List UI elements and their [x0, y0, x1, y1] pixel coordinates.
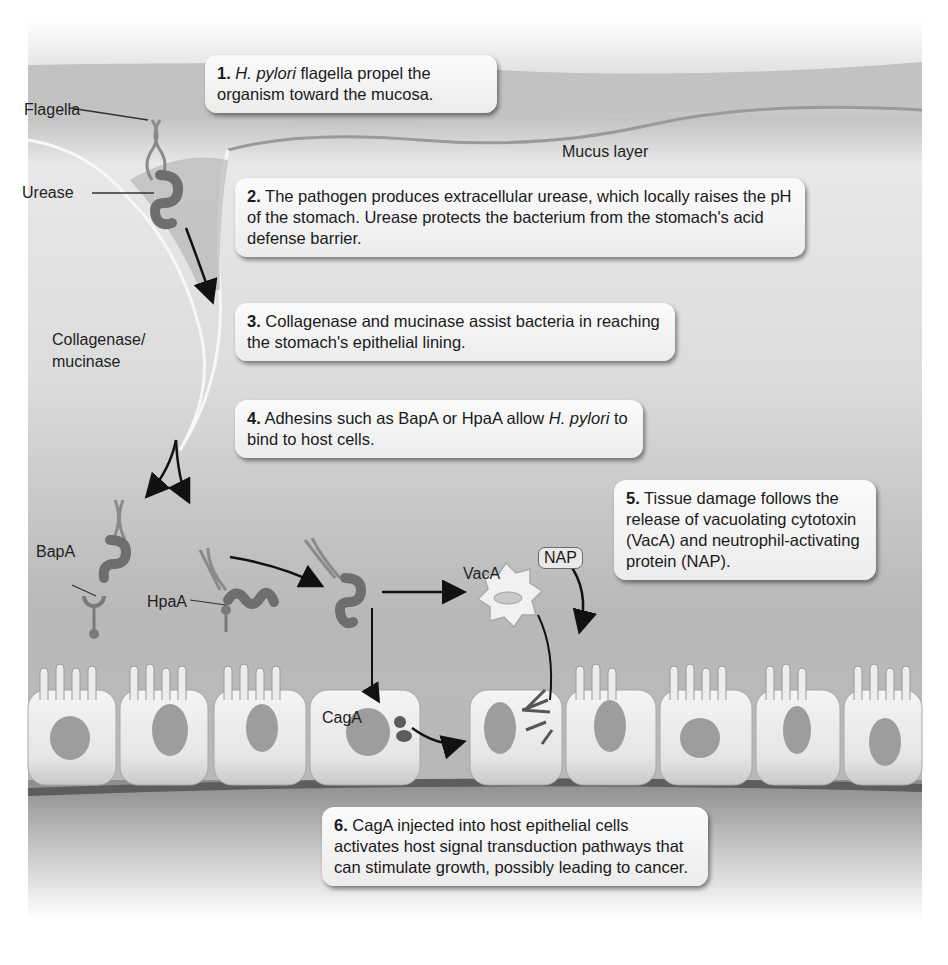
hpylori-diagram: Flagella Urease Mucus layer Collagenase/…: [0, 0, 948, 965]
callout-step-6: 6. CagA injected into host epithelial ce…: [322, 807, 708, 886]
step-number: 2.: [247, 187, 261, 205]
step-text: Adhesins such as BapA or HpaA allow: [261, 409, 549, 427]
step-number: 3.: [247, 312, 261, 330]
callout-step-5: 5. Tissue damage follows the release of …: [614, 480, 876, 580]
step-number: 6.: [334, 816, 348, 834]
step-text: The pathogen produces extracellular urea…: [247, 187, 792, 247]
label-nap: NAP: [538, 547, 583, 569]
label-collagenase: Collagenase/: [52, 330, 145, 350]
callout-step-1: 1. H. pylori flagella propel the organis…: [205, 55, 497, 113]
label-mucus-layer: Mucus layer: [562, 142, 648, 162]
epithelial-cells: [28, 690, 922, 785]
callout-step-3: 3. Collagenase and mucinase assist bacte…: [235, 303, 675, 361]
step-text: Tissue damage follows the release of vac…: [626, 489, 860, 570]
step-number: 5.: [626, 489, 640, 507]
step-number: 1.: [217, 64, 231, 82]
step-text: Collagenase and mucinase assist bacteria…: [247, 312, 660, 351]
label-flagella: Flagella: [24, 100, 80, 120]
label-vaca: VacA: [463, 564, 500, 584]
step-number: 4.: [247, 409, 261, 427]
label-mucinase: mucinase: [52, 352, 120, 372]
species-name: H. pylori: [549, 409, 610, 427]
label-caga: CagA: [322, 708, 362, 728]
species-name: H. pylori: [235, 64, 296, 82]
callout-step-4: 4. Adhesins such as BapA or HpaA allow H…: [235, 400, 643, 458]
callout-step-2: 2. The pathogen produces extracellular u…: [235, 178, 805, 257]
step-text: CagA injected into host epithelial cells…: [334, 816, 688, 876]
label-hpaa: HpaA: [147, 592, 187, 612]
label-bapa: BapA: [36, 542, 75, 562]
label-urease: Urease: [22, 183, 74, 203]
